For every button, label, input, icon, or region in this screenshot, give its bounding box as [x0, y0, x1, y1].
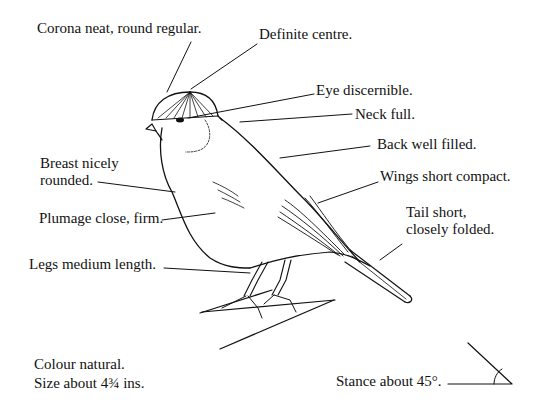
label-stance: Stance about 45°. — [336, 373, 442, 390]
label-plumage: Plumage close, firm. — [39, 210, 163, 227]
label-wings: Wings short compact. — [380, 168, 511, 185]
label-size: Size about 4¾ ins. — [34, 375, 144, 392]
label-breast-line1: Breast nicely — [40, 155, 119, 172]
stance-angle-icon — [448, 343, 512, 384]
label-back: Back well filled. — [377, 136, 477, 153]
label-neck: Neck full. — [355, 106, 415, 123]
label-legs: Legs medium length. — [29, 256, 156, 273]
bird-illustration — [0, 0, 539, 406]
perch — [200, 290, 335, 350]
label-eye: Eye discernible. — [316, 82, 413, 99]
bird-head — [146, 92, 222, 140]
label-tail-line2: closely folded. — [406, 221, 494, 238]
label-corona: Corona neat, round regular. — [37, 20, 202, 37]
label-breast-line2: rounded. — [40, 172, 93, 189]
label-tail-line1: Tail short, — [406, 204, 467, 221]
leader-lines — [98, 42, 402, 273]
eye-icon — [176, 118, 184, 123]
bird-standard-diagram: Corona neat, round regular. Definite cen… — [0, 0, 539, 406]
label-centre: Definite centre. — [259, 26, 352, 43]
label-colour: Colour natural. — [34, 356, 125, 373]
bird-body — [160, 118, 411, 318]
